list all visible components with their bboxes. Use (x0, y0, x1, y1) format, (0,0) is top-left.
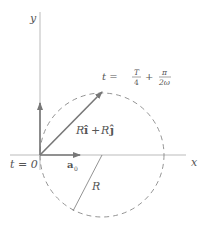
circular-motion-diagram: y x t = 0 t = T 4 + π 2ω R î + R ĵ a 0 R (0, 0, 209, 235)
t-frac1-den: 4 (134, 78, 139, 87)
x-axis-label: x (191, 156, 198, 169)
t-plus: + (145, 71, 153, 82)
y-axis-label: y (29, 12, 37, 25)
vector-label-R2: R (100, 124, 109, 137)
accel-subscript: 0 (74, 165, 78, 172)
vector-label-R1: R (75, 124, 84, 137)
t-label-prefix: t = (102, 71, 118, 82)
t-frac1-num: T (134, 68, 140, 77)
vector-label-i: î (84, 124, 89, 137)
vector-label-plus: + (91, 124, 100, 137)
accel-label: a (67, 159, 74, 170)
t-zero-label: t = 0 (10, 158, 38, 171)
t-frac2-den: 2ω (158, 78, 170, 87)
t-frac2-num: π (161, 68, 168, 77)
vector-label-j: ĵ (109, 124, 114, 137)
radius-label: R (91, 180, 100, 193)
